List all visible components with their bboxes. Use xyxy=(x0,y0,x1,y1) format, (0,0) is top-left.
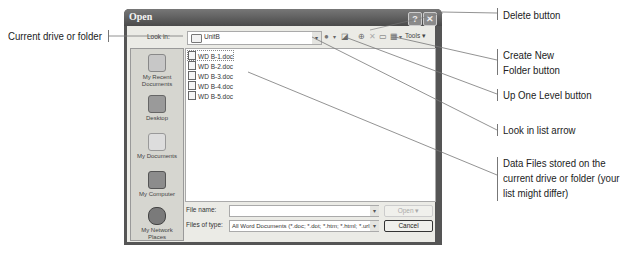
dialog-title: Open xyxy=(129,11,152,22)
file-name: WD B-4.doc xyxy=(198,83,233,90)
file-name: WD B-2.doc xyxy=(198,63,233,70)
place-desktop[interactable]: Desktop xyxy=(131,95,183,122)
word-doc-icon xyxy=(188,51,196,60)
look-in-combo[interactable]: UnitB ▾ xyxy=(187,31,322,45)
files-of-type-dropdown-arrow[interactable]: ▾ xyxy=(370,221,379,231)
place-label: Documents xyxy=(131,81,183,88)
places-bar: My Recent Documents Desktop My Documents… xyxy=(130,48,184,241)
place-my-documents[interactable]: My Documents xyxy=(131,133,183,160)
file-name: WD B-5.doc xyxy=(198,93,233,100)
place-label: My Network xyxy=(131,227,183,234)
desktop-icon xyxy=(148,95,166,113)
place-my-computer[interactable]: My Computer xyxy=(131,171,183,198)
open-arrow-icon: ▾ xyxy=(415,207,419,214)
callout-tick xyxy=(108,30,109,42)
word-doc-icon xyxy=(188,81,196,90)
cancel-button[interactable]: Cancel xyxy=(384,220,433,232)
file-item[interactable]: WD B-5.doc xyxy=(188,91,233,100)
word-doc-icon xyxy=(188,91,196,100)
place-label: Desktop xyxy=(131,115,183,122)
place-label: My Recent xyxy=(131,74,183,81)
file-item[interactable]: WD B-3.doc xyxy=(188,71,233,80)
callout-data-files-line1: Data Files stored on the xyxy=(503,157,606,170)
callout-create-folder-line2: Folder button xyxy=(503,64,560,77)
file-name: WD B-1.doc xyxy=(198,53,233,60)
callout-look-in-arrow: Look in list arrow xyxy=(503,124,575,137)
place-label: Places xyxy=(131,234,183,241)
file-name-input[interactable] xyxy=(229,205,379,217)
views-icon[interactable]: ▦ xyxy=(390,32,398,42)
place-label: My Computer xyxy=(131,191,183,198)
network-places-icon xyxy=(148,207,166,225)
callout-tick xyxy=(497,49,498,75)
callout-current-drive: Current drive or folder xyxy=(8,30,102,43)
file-list[interactable]: WD B-1.doc WD B-2.doc WD B-3.doc WD B-4.… xyxy=(185,48,436,202)
place-my-recent-documents[interactable]: My Recent Documents xyxy=(131,54,183,88)
look-in-list-arrow[interactable]: ▾ xyxy=(312,32,321,44)
file-name-dropdown-arrow[interactable]: ▾ xyxy=(370,206,379,216)
files-of-type-select[interactable]: All Word Documents (*.doc; *.dot; *.htm;… xyxy=(229,220,379,232)
search-web-icon[interactable]: ⊕ xyxy=(358,32,365,42)
file-name: WD B-3.doc xyxy=(198,73,233,80)
callout-tick xyxy=(497,8,498,20)
back-icon[interactable]: ● xyxy=(324,32,329,42)
callout-up-one-level: Up One Level button xyxy=(503,89,592,102)
callout-tick xyxy=(497,124,498,136)
word-doc-icon xyxy=(188,61,196,70)
look-in-label: Look in: xyxy=(147,33,170,40)
callout-create-folder-line1: Create New xyxy=(503,49,554,62)
title-bar[interactable]: Open ? ✕ xyxy=(124,9,442,26)
dialog-body: Look in: UnitB ▾ ● ▾ ◪ ⊕ ✕ ▭ ▦ ▾ Tools ▾… xyxy=(127,26,435,242)
recent-documents-icon xyxy=(148,54,166,72)
folder-icon xyxy=(191,34,202,43)
place-label: My Documents xyxy=(131,153,183,160)
toolbar: ● ▾ ◪ ⊕ ✕ ▭ ▦ ▾ Tools ▾ xyxy=(324,31,434,43)
file-item[interactable]: WD B-2.doc xyxy=(188,61,233,70)
views-dropdown-icon[interactable]: ▾ xyxy=(399,32,402,42)
file-name-label: File name: xyxy=(186,206,216,213)
up-one-level-icon[interactable]: ◪ xyxy=(341,32,349,42)
back-dropdown-icon[interactable]: ▾ xyxy=(333,32,336,42)
place-my-network-places[interactable]: My Network Places xyxy=(131,207,183,241)
file-item[interactable]: WD B-1.doc xyxy=(188,51,233,60)
help-button[interactable]: ? xyxy=(408,12,422,26)
file-item[interactable]: WD B-4.doc xyxy=(188,81,233,90)
files-of-type-label: Files of type: xyxy=(186,221,223,228)
create-new-folder-icon[interactable]: ▭ xyxy=(379,32,387,42)
close-button[interactable]: ✕ xyxy=(423,12,437,26)
callout-data-files-line2: current drive or folder (your xyxy=(503,172,620,185)
open-button[interactable]: Open ▾ xyxy=(384,205,433,217)
my-computer-icon xyxy=(148,171,166,189)
callout-tick xyxy=(497,89,498,101)
look-in-value: UnitB xyxy=(204,33,220,40)
open-dialog: Open ? ✕ Look in: UnitB ▾ ● ▾ ◪ ⊕ ✕ ▭ ▦ … xyxy=(124,9,442,245)
tools-menu[interactable]: Tools ▾ xyxy=(405,32,426,40)
my-documents-icon xyxy=(148,133,166,151)
word-doc-icon xyxy=(188,71,196,80)
open-label: Open xyxy=(398,207,414,214)
delete-icon[interactable]: ✕ xyxy=(369,32,376,42)
callout-tick xyxy=(497,157,498,201)
callout-data-files-line3: list might differ) xyxy=(503,187,568,200)
callout-delete-button: Delete button xyxy=(503,9,560,22)
